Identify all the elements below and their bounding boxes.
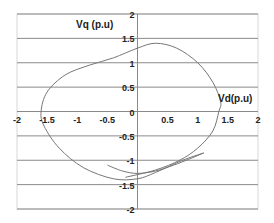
y-axis-label: Vq (p.u)	[76, 19, 113, 30]
x-tick-label: -1.5	[39, 115, 55, 125]
y-tick-label: 1.5	[122, 34, 135, 44]
x-tick-label: -1	[73, 115, 81, 125]
x-tick-label: -2	[13, 115, 21, 125]
y-tick-label: -0.5	[119, 132, 135, 142]
plot-area: -2-1.5-1-0.50.511.5221.510.50-0.5-1-1.5-…	[0, 0, 274, 223]
y-tick-label: -2	[126, 205, 134, 215]
x-axis-label: Vd(p.u)	[218, 93, 252, 104]
x-tick-label: 0.5	[161, 115, 174, 125]
x-tick-label: 1.5	[222, 115, 235, 125]
chart: -2-1.5-1-0.50.511.5221.510.50-0.5-1-1.5-…	[0, 0, 274, 223]
y-tick-label: 2	[129, 10, 134, 20]
y-tick-label: 1	[129, 59, 134, 69]
x-tick-label: 1	[195, 115, 200, 125]
y-tick-label: 0.5	[122, 83, 135, 93]
y-tick-label: -1.5	[119, 181, 135, 191]
y-tick-label: 0	[129, 108, 134, 118]
y-tick-label: -1	[126, 156, 134, 166]
x-tick-label: -0.5	[100, 115, 116, 125]
x-tick-label: 2	[255, 115, 260, 125]
